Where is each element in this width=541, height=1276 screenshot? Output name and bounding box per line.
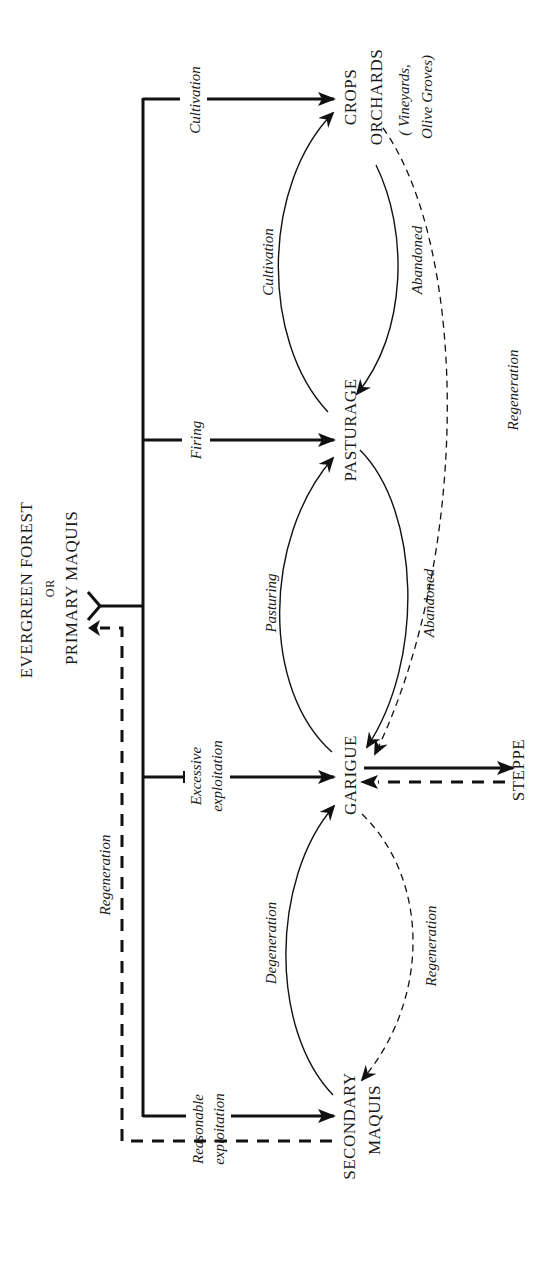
node-orchards: ORCHARDS [367, 49, 386, 146]
node-or: OR [43, 579, 57, 598]
cycle-arcs [278, 113, 513, 1095]
node-maquis: MAQUIS [365, 1085, 384, 1155]
label-abandoned-mid: Abandoned [421, 568, 437, 638]
junction-fork-bottom [88, 606, 100, 620]
node-evergreen-forest: EVERGREEN FOREST [17, 502, 36, 679]
node-orchards-note-1: ( Vineyards, [396, 64, 413, 136]
arc-garigue-to-pasturage [280, 458, 333, 752]
label-excessive-1: Excessive [188, 747, 204, 807]
arc-pasturage-to-garigue [360, 450, 408, 747]
arc-orchards-to-garigue-regeneration [375, 128, 447, 754]
label-reasonable-1: Reasonable [190, 1094, 206, 1165]
node-steppe: STEPPE [509, 739, 528, 802]
node-secondary: SECONDARY [340, 1072, 359, 1179]
junction-fork-top [88, 592, 100, 606]
label-excessive-2: exploitation [209, 740, 225, 812]
steppe-return-arrowhead [360, 775, 378, 789]
label-reasonable-2: exploitation [211, 1093, 227, 1165]
arc-orchards-to-pasturage [357, 165, 398, 394]
node-garigue: GARIGUE [341, 735, 360, 815]
arc-garigue-to-secondary-regeneration [362, 814, 413, 1080]
label-regeneration-left: Regeneration [97, 835, 113, 917]
label-regeneration-bottom: Regeneration [423, 906, 439, 988]
node-orchards-note-2: Olive Groves) [419, 55, 436, 139]
edge-labels: Cultivation Firing Excessive exploitatio… [97, 66, 521, 1165]
node-crops: CROPS [341, 69, 360, 125]
label-cultivation-arc: Cultivation [260, 228, 276, 296]
label-firing: Firing [188, 420, 204, 460]
arc-pasturage-to-crops [278, 113, 333, 412]
label-regeneration-long: Regeneration [505, 350, 521, 432]
regeneration-arrowhead [88, 620, 100, 636]
vegetation-cycle-diagram: EVERGREEN FOREST OR PRIMARY MAQUIS CROPS… [0, 0, 541, 1276]
regeneration-dashed-path [100, 628, 332, 1141]
node-primary-maquis: PRIMARY MAQUIS [62, 511, 81, 665]
label-degeneration: Degeneration [263, 902, 279, 985]
forest-branches [88, 98, 334, 1117]
arc-secondary-to-garigue [286, 806, 334, 1095]
label-abandoned-top: Abandoned [409, 225, 425, 295]
node-pasturage: PASTURAGE [341, 378, 360, 481]
label-pasturing: Pasturing [263, 573, 279, 634]
label-cultivation-main: Cultivation [187, 66, 203, 134]
